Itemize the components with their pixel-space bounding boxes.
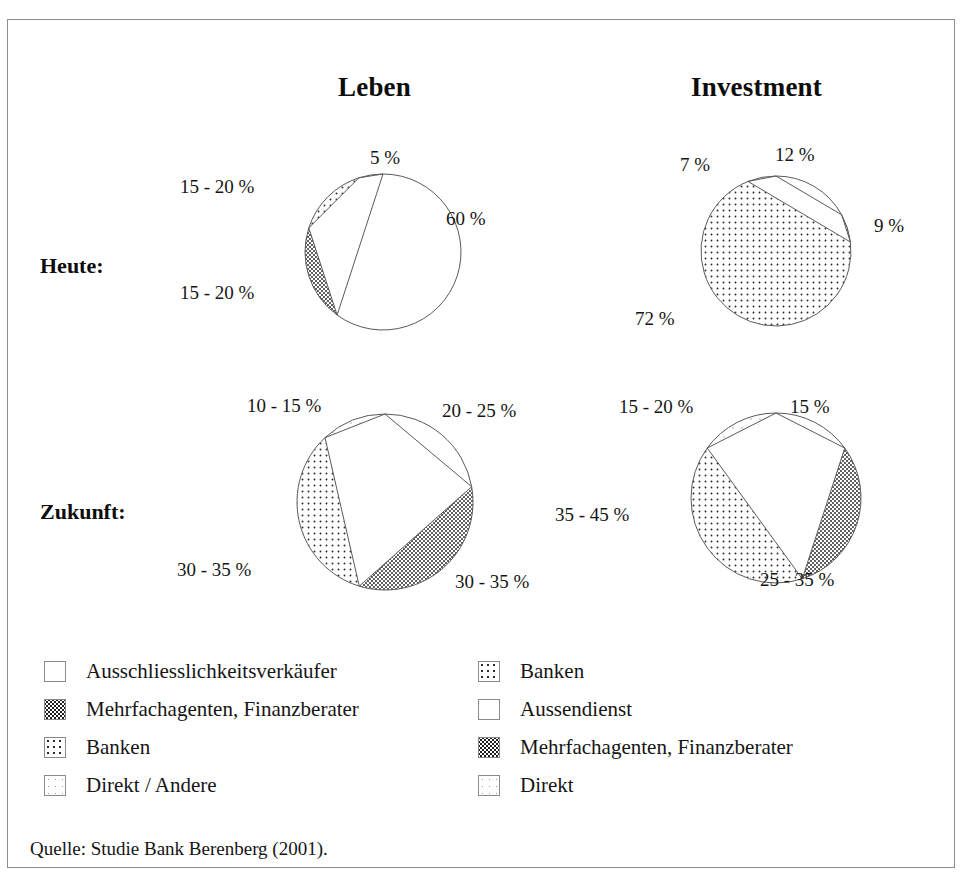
pie-value-label-leben-zukunft-dots: 30 - 35 %: [177, 559, 251, 581]
pie-slice-leben-zukunft-0: [385, 414, 472, 487]
pie-value-label-leben-zukunft-sparse: 10 - 15 %: [247, 395, 321, 417]
legend-swatch-sparse-icon: [478, 775, 500, 796]
legend-swatch-dots-icon: [44, 737, 66, 758]
column-title-investment: Investment: [691, 72, 822, 103]
legend-item[interactable]: Direkt: [478, 766, 918, 804]
pie-slice-investment-heute-3: [748, 176, 776, 181]
pie-slice-leben-heute-1: [305, 228, 337, 315]
legend-swatch-sparse-icon: [44, 775, 66, 796]
legend-item-label: Direkt: [520, 773, 574, 798]
pie-value-label-leben-heute-white: 60 %: [446, 208, 486, 230]
legend-item-label: Direkt / Andere: [86, 773, 217, 798]
legend-item-label: Banken: [86, 735, 150, 760]
pie-value-label-investment-heute-dense: 9 %: [874, 215, 904, 237]
pie-slice-leben-heute-2: [309, 178, 359, 228]
legend-swatch-white-icon: [44, 661, 66, 682]
legend-item[interactable]: Ausschliesslichkeitsverkäufer: [44, 652, 474, 690]
pie-chart-investment-heute: [693, 168, 859, 334]
legend-item-label: Aussendienst: [520, 697, 632, 722]
pie-value-label-leben-zukunft-white: 20 - 25 %: [442, 400, 516, 422]
legend-item-label: Mehrfachagenten, Finanzberater: [86, 697, 359, 722]
pie-slice-leben-zukunft-2: [297, 438, 359, 586]
pie-value-label-investment-heute-dots: 72 %: [635, 308, 675, 330]
pie-value-label-investment-heute-sparse: 7 %: [680, 154, 710, 176]
legend-swatch-white-icon: [478, 699, 500, 720]
legend-item[interactable]: Direkt / Andere: [44, 766, 474, 804]
legend-item[interactable]: Mehrfachagenten, Finanzberater: [478, 728, 918, 766]
pie-value-label-investment-heute-white: 12 %: [775, 144, 815, 166]
pie-chart-leben-zukunft: [297, 414, 473, 590]
legend-swatch-dense-icon: [44, 699, 66, 720]
pie-value-label-leben-heute-dots: 15 - 20 %: [180, 176, 254, 198]
figure-frame: Leben Investment Heute: Zukunft:: [7, 19, 955, 868]
legend-item[interactable]: Aussendienst: [478, 690, 918, 728]
legend-swatch-dots-icon: [478, 661, 500, 682]
legend-item-label: Ausschliesslichkeitsverkäufer: [86, 659, 337, 684]
pie-slice-leben-heute-0: [337, 174, 461, 330]
pie-slice-leben-heute-3: [359, 174, 383, 178]
legend-item[interactable]: Banken: [478, 652, 918, 690]
pie-value-label-leben-heute-sparse: 5 %: [370, 147, 400, 169]
column-title-leben: Leben: [338, 72, 411, 103]
legend-item-label: Banken: [520, 659, 584, 684]
pie-value-label-leben-zukunft-dense: 30 - 35 %: [455, 571, 529, 593]
row-label-zukunft: Zukunft:: [40, 499, 126, 525]
legend-item[interactable]: Mehrfachagenten, Finanzberater: [44, 690, 474, 728]
pie-value-label-investment-zukunft-white: 15 %: [790, 396, 830, 418]
source-note: Quelle: Studie Bank Berenberg (2001).: [30, 838, 328, 860]
pie-value-label-investment-zukunft-sparse: 15 - 20 %: [619, 396, 693, 418]
pie-value-label-investment-zukunft-dots: 35 - 45 %: [555, 504, 629, 526]
legend-item[interactable]: Banken: [44, 728, 474, 766]
pie-value-label-investment-zukunft-dense: 25 - 35 %: [760, 569, 834, 591]
pie-chart-investment-zukunft: [691, 413, 861, 583]
pie-slice-investment-zukunft-0: [776, 413, 845, 448]
pie-chart-leben-heute: [297, 166, 469, 338]
legend-column-leben: Ausschliesslichkeitsverkäufer Mehrfachag…: [44, 652, 474, 804]
pie-slice-leben-zukunft-3: [325, 414, 385, 438]
legend-swatch-dense-icon: [478, 737, 500, 758]
pie-slice-investment-zukunft-3: [707, 413, 776, 448]
pie-value-label-leben-heute-dense: 15 - 20 %: [180, 282, 254, 304]
pie-slice-investment-zukunft-1: [802, 448, 861, 579]
legend-column-investment: Banken Aussendienst Mehrfachagenten, Fin…: [478, 652, 918, 804]
row-label-heute: Heute:: [40, 253, 104, 279]
pie-slice-investment-zukunft-2: [691, 448, 802, 583]
legend-item-label: Mehrfachagenten, Finanzberater: [520, 735, 793, 760]
